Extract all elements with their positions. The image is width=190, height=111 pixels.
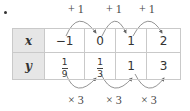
bottom-op-3: × 3 (141, 93, 157, 108)
denominator: 9 (62, 70, 68, 79)
function-table: x −1 0 1 2 y 1 9 1 3 1 3 (12, 28, 181, 80)
x-cell: −1 (45, 29, 85, 53)
top-op-2: + 1 (106, 2, 122, 17)
row-header-y: y (13, 53, 45, 80)
y-cell: 3 (147, 53, 181, 80)
bottom-op-1: × 3 (68, 93, 84, 108)
table-row-y: y 1 9 1 3 1 3 (13, 53, 181, 80)
y-cell: 1 (116, 53, 147, 80)
fraction: 1 3 (97, 58, 103, 79)
x-cell: 1 (116, 29, 147, 53)
table-row-x: x −1 0 1 2 (13, 29, 181, 53)
y-cell: 1 9 (45, 53, 85, 80)
x-cell: 2 (147, 29, 181, 53)
y-cell: 1 3 (85, 53, 116, 80)
denominator: 3 (97, 70, 103, 79)
numerator: 1 (62, 58, 68, 67)
row-header-x: x (13, 29, 45, 53)
top-op-1: + 1 (68, 2, 84, 17)
top-op-3: + 1 (139, 2, 155, 17)
numerator: 1 (97, 58, 103, 67)
bottom-op-2: × 3 (106, 93, 122, 108)
fraction: 1 9 (62, 58, 68, 79)
x-cell: 0 (85, 29, 116, 53)
